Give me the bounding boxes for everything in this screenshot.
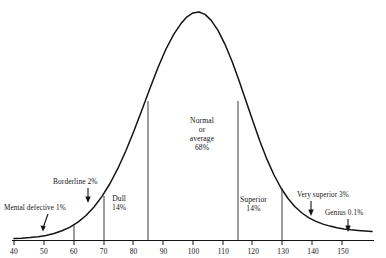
arrow-very-superior — [308, 201, 313, 216]
label-mental-defective: Mental defective 1% — [4, 204, 66, 212]
label-superior-percent: 14% — [240, 205, 267, 214]
x-axis-tick-label: 40 — [10, 247, 18, 256]
label-normal-percent: 68% — [172, 144, 232, 153]
label-superior: Superior 14% — [240, 196, 267, 214]
x-axis-tick-label: 60 — [70, 247, 78, 256]
label-borderline-text: Borderline 2% — [53, 177, 98, 186]
label-genius-text: Genius 0.1% — [325, 209, 363, 217]
x-axis-tick-label: 80 — [130, 247, 138, 256]
x-axis-tick-label: 150 — [337, 247, 349, 256]
x-axis-tick-label: 70 — [100, 247, 108, 256]
arrow-mental-defective — [40, 214, 48, 232]
label-dull-percent: 14% — [112, 204, 126, 213]
label-very-superior: Very superior 3% — [297, 191, 349, 199]
x-axis-tick-label: 140 — [307, 247, 319, 256]
x-axis-tick-label: 100 — [188, 247, 200, 256]
label-very-superior-text: Very superior 3% — [297, 191, 349, 199]
arrow-borderline — [85, 188, 90, 203]
x-axis-tick-label: 90 — [160, 247, 168, 256]
label-normal-average: Normal or average 68% — [172, 117, 232, 153]
label-mental-defective-text: Mental defective 1% — [4, 204, 66, 212]
x-axis-tick-label: 130 — [277, 247, 289, 256]
label-dull: Dull 14% — [112, 195, 126, 213]
label-borderline: Borderline 2% — [53, 178, 98, 187]
x-axis-tick-label: 50 — [40, 247, 48, 256]
x-axis-tick-label: 110 — [218, 247, 229, 256]
x-axis-ticks — [14, 241, 342, 246]
iq-bell-curve-chart: Mental defective 1% Borderline 2% Dull 1… — [0, 0, 386, 258]
x-axis-tick-label: 120 — [247, 247, 259, 256]
label-genius: Genius 0.1% — [325, 209, 363, 217]
